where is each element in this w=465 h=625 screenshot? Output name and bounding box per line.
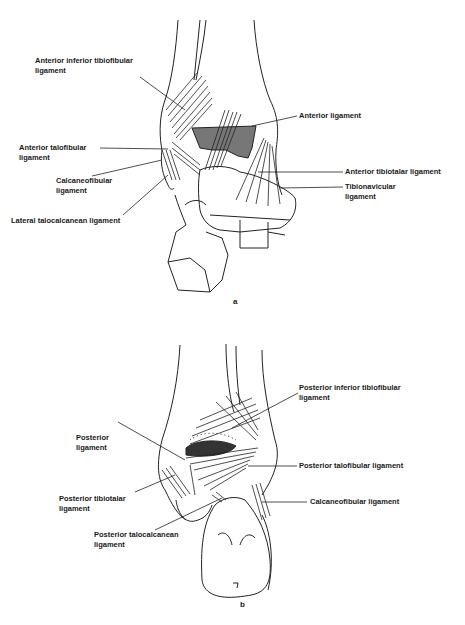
label-line: ligament [35, 66, 133, 76]
label-line: Calcaneofibular [56, 176, 112, 186]
label-posterior-tibiotalar-ligament: Posterior tibiotalar ligament [59, 494, 126, 514]
panel-caption-b: b [240, 600, 245, 609]
label-tibionavicular-ligament: Tibionavicular ligament [345, 182, 396, 202]
ankle-ligament-illustration [0, 0, 465, 625]
label-line: Lateral talocalcanean ligament [11, 216, 120, 226]
label-line: ligament [299, 393, 401, 403]
label-line: ligament [76, 443, 109, 453]
panel-caption-a: a [233, 297, 237, 306]
label-line: ligament [59, 504, 126, 514]
label-calcaneofibular-ligament-a: Calcaneofibular ligament [56, 176, 112, 196]
label-posterior-talocalcanean-ligament: Posterior talocalcanean ligament [94, 530, 179, 550]
panel-b-drawing [158, 344, 277, 597]
label-line: Posterior [76, 433, 109, 443]
label-line: Posterior talofibular ligament [299, 461, 403, 471]
label-line: Anterior inferior tibiofibular [35, 56, 133, 66]
label-line: ligament [345, 192, 396, 202]
label-calcaneofibular-ligament-b: Calcaneofibular ligament [310, 497, 399, 507]
label-line: Calcaneofibular ligament [310, 497, 399, 507]
label-anterior-tibiotalar-ligament: Anterior tibiotalar ligament [345, 167, 441, 177]
label-line: Tibionavicular [345, 182, 396, 192]
label-line: Posterior inferior tibiofibular [299, 383, 401, 393]
label-line: ligament [19, 153, 87, 163]
label-line: Posterior tibiotalar [59, 494, 126, 504]
fibula-outline-a [160, 20, 178, 150]
fibula-outline-b [262, 350, 277, 495]
label-lateral-talocalcanean-ligament: Lateral talocalcanean ligament [11, 216, 120, 226]
label-anterior-talofibular-ligament: Anterior talofibular ligament [19, 143, 87, 163]
label-line: Anterior ligament [299, 111, 361, 121]
tibia-outline-a [254, 20, 282, 195]
label-line: Anterior talofibular [19, 143, 87, 153]
label-line: ligament [56, 186, 112, 196]
panel-a-drawing [160, 20, 296, 292]
label-posterior-ligament: Posterior ligament [76, 433, 109, 453]
label-posterior-talofibular-ligament: Posterior talofibular ligament [299, 461, 403, 471]
label-posterior-inferior-tibiofibular-ligament: Posterior inferior tibiofibular ligament [299, 383, 401, 403]
label-anterior-inferior-tibiofibular-ligament: Anterior inferior tibiofibular ligament [35, 56, 133, 76]
label-line: Anterior tibiotalar ligament [345, 167, 441, 177]
label-line: Posterior talocalcanean [94, 530, 179, 540]
tibia-outline-b [158, 345, 186, 520]
label-anterior-ligament: Anterior ligament [299, 111, 361, 121]
label-line: ligament [94, 540, 179, 550]
